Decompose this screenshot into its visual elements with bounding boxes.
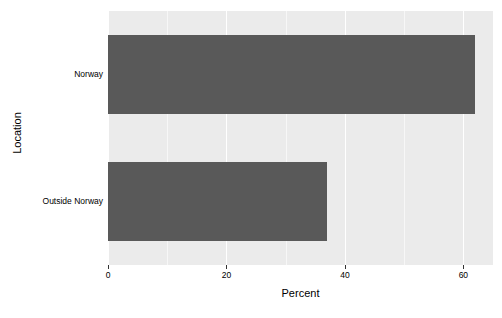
- y-tick-outside-norway: Outside Norway: [0, 196, 103, 208]
- bar-chart: Location Norway Outside Norway 0 20 40 6…: [0, 0, 502, 318]
- y-tick-norway: Norway: [0, 69, 103, 81]
- y-tick-label-outside-norway: Outside Norway: [43, 196, 103, 206]
- x-tick-mark-60: [463, 265, 464, 269]
- y-tick-label-norway: Norway: [74, 69, 103, 79]
- x-tick-label-60: 60: [459, 270, 468, 280]
- x-axis-title: Percent: [108, 287, 493, 299]
- x-tick-label-0: 0: [106, 270, 111, 280]
- x-tick-mark-20: [226, 265, 227, 269]
- bar-norway: [108, 35, 475, 114]
- y-axis-title: Location: [11, 93, 23, 173]
- x-tick-mark-40: [345, 265, 346, 269]
- x-tick-label-20: 20: [222, 270, 231, 280]
- x-tick-mark-0: [108, 265, 109, 269]
- bar-outside-norway: [108, 162, 327, 241]
- x-tick-label-40: 40: [340, 270, 349, 280]
- plot-panel: [108, 11, 493, 265]
